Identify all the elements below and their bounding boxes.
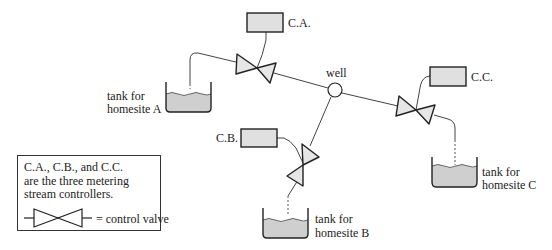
pipes [190, 32, 455, 196]
controller-c-box [430, 67, 466, 86]
well-label: well [326, 67, 347, 80]
controller-b-label: C.B. [216, 132, 238, 145]
valve-b-icon [287, 144, 319, 186]
well-icon [328, 83, 342, 97]
valve-c-icon [396, 96, 435, 124]
tank-b-icon [263, 208, 308, 238]
controller-a-label: C.A. [288, 17, 311, 30]
tank-a-icon [166, 82, 211, 112]
legend-line-2: are the three metering [24, 175, 129, 189]
controller-c-label: C.C. [471, 71, 493, 84]
tank-b-label-line2: homesite B [315, 227, 369, 240]
legend-box: C.A., C.B., and C.C. are the three meter… [17, 155, 161, 231]
drip-lines [190, 84, 455, 214]
tank-c-label-line2: homesite C [482, 179, 536, 192]
controller-a-box [247, 13, 283, 32]
valve-a-icon [236, 54, 276, 83]
legend-text: C.A., C.B., and C.C. are the three meter… [24, 161, 129, 202]
tank-a-label-line2: homesite A [107, 103, 161, 116]
legend-valve-text: = control valve [96, 212, 169, 227]
legend-line-1: C.A., C.B., and C.C. [24, 161, 129, 175]
controller-b-box [241, 129, 277, 147]
legend-line-3: stream controllers. [24, 188, 129, 202]
tank-b-label-line1: tank for [315, 213, 353, 226]
legend-valve-icon [24, 206, 92, 230]
